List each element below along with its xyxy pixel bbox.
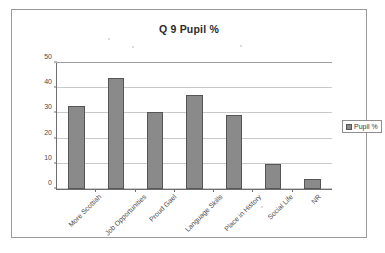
bar-slot (293, 63, 332, 189)
bar-slot (96, 63, 135, 189)
y-tick-label-30: 30 (44, 103, 52, 110)
scan-speckle (108, 38, 110, 40)
bar-0[interactable] (68, 106, 84, 189)
x-label-slot: NR (293, 192, 332, 252)
bar-2[interactable] (147, 112, 163, 189)
y-tick-label-10: 10 (44, 153, 52, 160)
y-tick-label-0: 0 (48, 179, 52, 186)
bar-slot (253, 63, 292, 189)
scan-speckle (132, 46, 134, 48)
bar-1[interactable] (108, 78, 124, 189)
x-axis-label-6: NR (310, 193, 322, 205)
chart-frame: Q 9 Pupil % 50403020100 More ScottishJob… (11, 9, 367, 238)
chart-legend: Pupil % (342, 120, 382, 133)
scan-speckle (240, 45, 242, 47)
y-tick-label-20: 20 (44, 128, 52, 135)
bar-6[interactable] (304, 179, 320, 189)
x-axis-labels: More ScottishJob OpportunitiesProud Gael… (56, 192, 332, 252)
x-label-slot: Language Skills (174, 192, 213, 252)
x-label-slot: Place in History (214, 192, 253, 252)
x-label-slot: More Scottish (56, 192, 95, 252)
x-label-slot: Social Life (253, 192, 292, 252)
bar-3[interactable] (186, 95, 202, 190)
bar-4[interactable] (226, 115, 242, 189)
x-label-slot: Job Opportunities (95, 192, 134, 252)
x-label-slot: Proud Gael (135, 192, 174, 252)
bars-layer (57, 63, 332, 189)
legend-label: Pupil % (354, 123, 378, 130)
bar-5[interactable] (265, 164, 281, 189)
legend-swatch-icon (346, 124, 352, 130)
plot-area: 50403020100 (56, 63, 332, 190)
chart-title: Q 9 Pupil % (12, 23, 366, 35)
y-tick-label-40: 40 (44, 78, 52, 85)
x-axis-label-5: Social Life (266, 193, 294, 221)
y-tick-label-50: 50 (44, 53, 52, 60)
bar-slot (136, 63, 175, 189)
bar-slot (214, 63, 253, 189)
bar-slot (57, 63, 96, 189)
x-axis-label-2: Proud Gael (147, 193, 177, 223)
bar-slot (175, 63, 214, 189)
